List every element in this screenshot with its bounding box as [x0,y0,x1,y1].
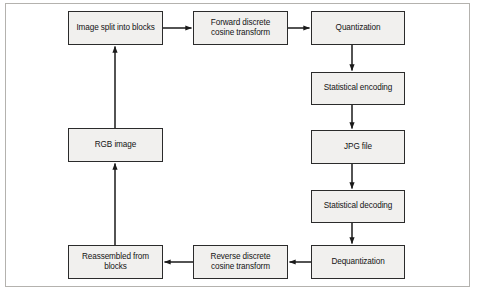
node-label: Reverse discrete cosine transform [211,252,271,273]
node-reassembled-from-blocks[interactable]: Reassembled from blocks [68,245,163,279]
node-label: Quantization [336,23,381,34]
node-label: Statistical encoding [324,83,393,94]
node-quantization[interactable]: Quantization [311,11,405,45]
node-label: Reassembled from blocks [82,252,149,273]
node-statistical-decoding[interactable]: Statistical decoding [311,190,405,223]
node-label: Forward discrete cosine transform [211,18,270,39]
node-label: Dequantization [331,257,384,268]
node-jpg-file[interactable]: JPG file [311,130,405,164]
node-image-split-into-blocks[interactable]: Image split into blocks [68,11,163,45]
flowchart-diagram: Image split into blocks Forward discrete… [0,0,477,294]
node-statistical-encoding[interactable]: Statistical encoding [311,72,405,105]
node-label: Statistical decoding [324,201,393,212]
node-reverse-discrete-cosine-transform[interactable]: Reverse discrete cosine transform [193,245,288,279]
node-forward-discrete-cosine-transform[interactable]: Forward discrete cosine transform [193,11,288,45]
node-label: Image split into blocks [76,23,154,34]
node-label: RGB image [95,140,136,151]
node-dequantization[interactable]: Dequantization [311,245,405,279]
node-label: JPG file [344,142,372,153]
node-rgb-image[interactable]: RGB image [68,128,163,162]
